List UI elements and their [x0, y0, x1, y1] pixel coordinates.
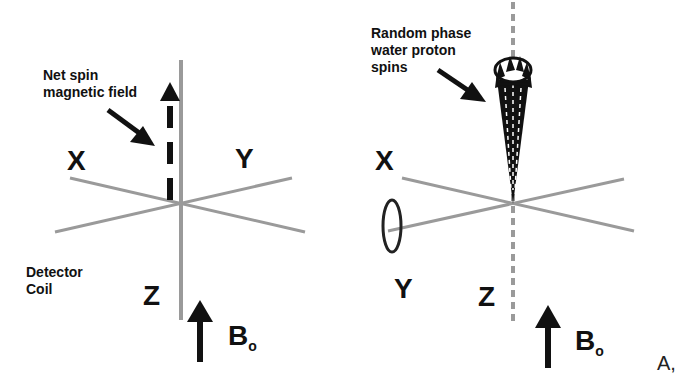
right-axis-z-label: Z: [478, 281, 495, 312]
left-panel: Net spin magnetic field X Y Z Detector C…: [26, 60, 305, 362]
right-axis-y-label: Y: [394, 273, 413, 304]
mri-spin-diagram: Net spin magnetic field X Y Z Detector C…: [0, 0, 677, 388]
left-b0-label: Bo: [228, 320, 257, 354]
right-axis-line-b: [388, 179, 624, 231]
detector-coil-line2: Coil: [26, 281, 52, 297]
left-annotation-line1: Net spin: [43, 67, 98, 83]
random-phase-spin-cone-icon: [495, 56, 532, 204]
right-annotation-line3: spins: [371, 59, 408, 75]
right-annotation-line1: Random phase: [371, 25, 472, 41]
right-axis-x-label: X: [375, 145, 394, 176]
left-axis-y-label: Y: [235, 143, 254, 174]
detector-coil-ring-icon: [383, 200, 401, 252]
left-axis-x-label: X: [67, 145, 86, 176]
left-pointer-arrow-icon: [108, 110, 155, 146]
panel-label: A,: [657, 352, 676, 374]
left-axis-z-label: Z: [143, 280, 160, 311]
left-annotation-line2: magnetic field: [43, 84, 137, 100]
right-b0-arrow-icon: [535, 305, 561, 368]
left-axis-line-b: [55, 178, 292, 232]
right-b0-label: Bo: [575, 325, 604, 359]
right-annotation-line2: water proton: [370, 42, 456, 58]
left-axis-line-a: [70, 178, 305, 232]
left-b0-arrow-icon: [187, 300, 213, 362]
right-pointer-arrow-icon: [438, 70, 486, 102]
detector-coil-line1: Detector: [26, 264, 83, 280]
net-spin-arrow-icon: [160, 82, 180, 200]
right-panel: Random phase water proton spins X Y Z Bo…: [370, 2, 676, 374]
